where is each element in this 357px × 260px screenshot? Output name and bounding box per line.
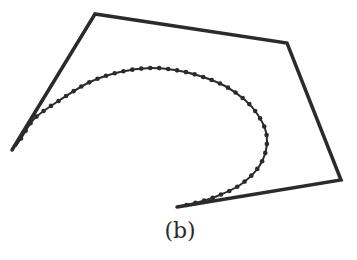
curve-dot: [95, 76, 100, 81]
curve-dot: [226, 85, 231, 90]
curve-dot: [175, 68, 180, 73]
curve-dot: [64, 94, 69, 99]
curve-dot: [130, 67, 135, 72]
curve-dot: [265, 142, 270, 147]
curve-sample-points: [19, 66, 269, 208]
curve-dot: [263, 151, 268, 156]
curve-dot: [157, 66, 162, 71]
curve-dot: [233, 90, 238, 95]
curve-dot: [210, 196, 215, 201]
curve-dot: [240, 96, 245, 101]
curve-dot: [253, 109, 258, 114]
control-polygon: [12, 14, 341, 207]
curve-dot: [139, 66, 144, 71]
curve-dot: [260, 159, 265, 164]
curve-dot: [201, 75, 206, 80]
curve-dot: [121, 69, 126, 74]
curve-dot: [79, 84, 84, 89]
curve-dot: [34, 114, 39, 119]
curve-dot: [19, 136, 24, 141]
curve-dot: [227, 189, 232, 194]
curve-dot: [202, 198, 207, 203]
curve-dot: [71, 89, 76, 94]
curve-dot: [104, 73, 109, 78]
curve-dot: [184, 203, 189, 208]
curve-dot: [28, 121, 33, 126]
figure-label: (b): [160, 218, 200, 243]
curve-dot: [264, 133, 269, 138]
curve-dot: [255, 167, 260, 172]
curve-dot: [219, 192, 224, 197]
curve-dot: [193, 201, 198, 206]
curve-dot: [235, 184, 240, 189]
curve-dot: [41, 109, 46, 114]
curve-dot: [249, 173, 254, 178]
curve-dot: [112, 71, 117, 76]
curve-dot: [192, 72, 197, 77]
curve-dot: [56, 99, 61, 104]
curve-dot: [258, 116, 263, 121]
curve-dot: [184, 70, 189, 75]
curve-dot: [23, 129, 28, 134]
curve-dot: [166, 67, 171, 72]
curve-dot: [262, 124, 267, 129]
curve-dot: [247, 102, 252, 107]
curve-dot: [209, 78, 214, 83]
curve-dot: [242, 179, 247, 184]
curve-dot: [49, 104, 54, 109]
curve-dot: [87, 80, 92, 85]
curve-dot: [148, 66, 153, 71]
curve-dot: [218, 81, 223, 86]
figure-canvas: (b): [0, 0, 357, 260]
